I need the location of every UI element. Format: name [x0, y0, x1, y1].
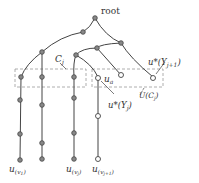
filled-nodes	[18, 16, 124, 163]
hollow-nodes	[96, 73, 156, 162]
u-star-yj1-label: u*(Yj+1)	[148, 57, 181, 69]
ua-label: ua	[104, 74, 114, 85]
ua-node	[96, 76, 101, 81]
tree-diagram: root Cj ua u*(Yj+1) U(Cj) u*(Yj) u(v1) u…	[0, 0, 199, 183]
cj-label: Cj	[55, 54, 64, 66]
root-label: root	[101, 6, 120, 16]
u-star-yj-label: u*(Yj)	[108, 100, 132, 112]
u-star-yj-node	[96, 114, 101, 119]
u-cj-label: U(Cj)	[139, 91, 159, 102]
leaf-vj1-label: u(vj+1)	[92, 164, 115, 176]
leaf-vj-label: u(vj)	[66, 164, 82, 176]
leaf-v1-label: u(v1)	[9, 164, 26, 176]
u-star-yj1-node	[151, 76, 156, 81]
tree-edges	[20, 18, 153, 160]
